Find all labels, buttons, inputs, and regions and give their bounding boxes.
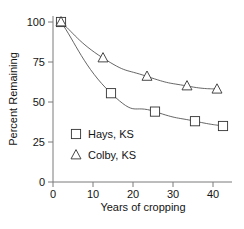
y-tick-label: 100 (27, 16, 45, 28)
legend-label-hays: Hays, KS (88, 128, 134, 140)
x-axis-title: Years of cropping (100, 201, 185, 213)
data-point-hays (150, 107, 159, 116)
data-point-hays (106, 89, 115, 98)
x-tick-label: 0 (50, 188, 56, 200)
legend-label-colby: Colby, KS (88, 149, 136, 161)
x-tick-label: 20 (127, 188, 139, 200)
y-axis-title: Percent Remaining (7, 52, 19, 146)
chart-figure: 0255075100 010203040 Years of cropping P… (0, 0, 244, 229)
data-point-hays (218, 121, 227, 130)
x-tick-label: 30 (167, 188, 179, 200)
x-tick-label: 40 (207, 188, 219, 200)
x-tick-label: 10 (87, 188, 99, 200)
y-tick-label: 50 (33, 96, 45, 108)
percent-remaining-line-chart: 0255075100 010203040 Years of cropping P… (0, 0, 244, 229)
data-point-hays (190, 117, 199, 126)
legend-square-marker (71, 129, 80, 138)
y-tick-label: 0 (39, 176, 45, 188)
y-tick-label: 25 (33, 136, 45, 148)
y-tick-label: 75 (33, 56, 45, 68)
